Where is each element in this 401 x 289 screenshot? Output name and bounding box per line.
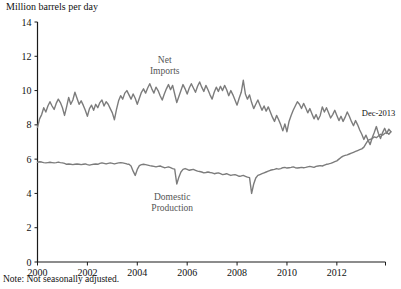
chart-axes — [35, 22, 386, 266]
chart-tick-labels: 024681012142000200220042006200820102012 — [22, 17, 347, 279]
domestic-production-label: DomesticProduction — [151, 192, 193, 213]
x-tick-label: 2006 — [177, 267, 197, 278]
y-tick-label: 2 — [27, 222, 32, 233]
y-tick-label: 4 — [27, 188, 32, 199]
chart-annotations: NetImportsDomesticProductionDec-2013 — [150, 55, 395, 213]
x-tick-label: 2004 — [127, 267, 147, 278]
last-point-callout: Dec-2013 — [362, 108, 396, 118]
net-imports-label: NetImports — [150, 55, 180, 76]
y-tick-label: 12 — [22, 51, 32, 62]
x-tick-label: 2008 — [227, 267, 247, 278]
chart-plot-area: 024681012142000200220042006200820102012 … — [0, 0, 401, 289]
chart-series-lines — [38, 80, 391, 193]
y-tick-label: 6 — [27, 154, 32, 165]
chart-figure: Million barrels per day 0246810121420002… — [0, 0, 401, 289]
series-line-domestic-production — [38, 132, 391, 194]
y-tick-label: 8 — [27, 119, 32, 130]
chart-footnote: Note: Not seasonally adjusted. — [3, 273, 119, 285]
x-tick-label: 2012 — [327, 267, 347, 278]
y-tick-label: 0 — [27, 257, 32, 268]
y-tick-label: 10 — [22, 85, 32, 96]
y-axis-title: Million barrels per day — [6, 1, 98, 13]
y-tick-label: 14 — [22, 17, 32, 28]
x-tick-label: 2010 — [277, 267, 297, 278]
series-line-net-imports — [38, 80, 391, 144]
